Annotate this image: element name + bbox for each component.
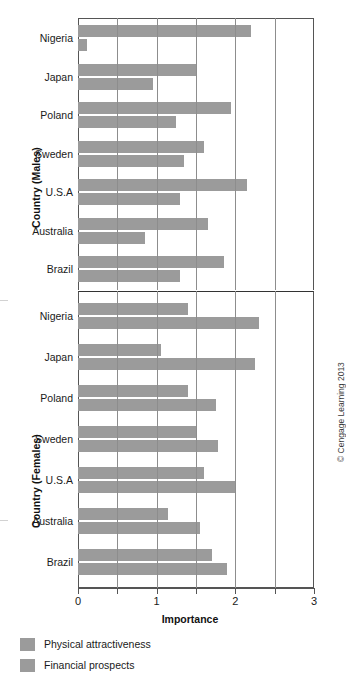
legend: Physical attractivenessFinancial prospec… <box>20 636 280 678</box>
y-tick-label: Brazil <box>0 263 73 275</box>
bar-financial-prospects <box>78 193 180 205</box>
y-tick-label: Brazil <box>0 556 73 568</box>
legend-label: Physical attractiveness <box>44 636 151 653</box>
gridline <box>117 291 118 588</box>
bar-financial-prospects <box>78 232 145 244</box>
bar-financial-prospects <box>78 399 216 411</box>
category-labels: NigeriaJapanPolandSwedenU.S.AAustraliaBr… <box>0 0 76 686</box>
x-axis-title: Importance <box>0 613 346 625</box>
gridline <box>157 18 158 290</box>
y-axis-title-males: Country (Males) <box>30 147 42 228</box>
bar-financial-prospects <box>78 358 255 370</box>
bar-physical-attractiveness <box>78 218 208 230</box>
bar-physical-attractiveness <box>78 25 251 37</box>
bar-physical-attractiveness <box>78 102 231 114</box>
bar-financial-prospects <box>78 78 153 90</box>
bar-chart-figure: NigeriaJapanPolandSwedenU.S.AAustraliaBr… <box>0 0 346 686</box>
copyright-credit: © Cengage Learning 2013 <box>336 362 346 462</box>
panel-males <box>78 18 314 290</box>
y-tick-label: Nigeria <box>0 32 73 44</box>
bar-physical-attractiveness <box>78 256 224 268</box>
bar-financial-prospects <box>78 270 180 282</box>
bar-physical-attractiveness <box>78 549 212 561</box>
bar-financial-prospects <box>78 522 200 534</box>
bar-physical-attractiveness <box>78 508 168 520</box>
x-tick-label: 0 <box>75 595 81 607</box>
gridline <box>275 291 276 588</box>
bar-financial-prospects <box>78 155 184 167</box>
x-axis-tick <box>275 588 276 594</box>
gridline <box>235 291 236 588</box>
y-tick-label: Poland <box>0 392 73 404</box>
x-tick-label: 1 <box>154 595 160 607</box>
gridline <box>117 18 118 290</box>
bar-physical-attractiveness <box>78 426 196 438</box>
legend-swatch <box>20 638 35 651</box>
x-axis-tick <box>78 588 79 594</box>
y-tick-label: Nigeria <box>0 310 73 322</box>
gridline <box>196 18 197 290</box>
x-tick-label: 2 <box>232 595 238 607</box>
bar-physical-attractiveness <box>78 179 247 191</box>
bar-financial-prospects <box>78 317 259 329</box>
legend-item: Financial prospects <box>20 657 280 675</box>
bar-physical-attractiveness <box>78 303 188 315</box>
legend-item: Physical attractiveness <box>20 636 280 654</box>
gridline <box>275 18 276 290</box>
y-tick-label: Japan <box>0 71 73 83</box>
legend-swatch <box>20 659 35 672</box>
panel-females <box>78 291 314 588</box>
bar-physical-attractiveness <box>78 385 188 397</box>
x-axis-tick <box>196 588 197 594</box>
x-axis: 0123 <box>78 588 314 589</box>
bar-financial-prospects <box>78 563 227 575</box>
x-tick-label: 3 <box>311 595 317 607</box>
bar-physical-attractiveness <box>78 141 204 153</box>
bar-physical-attractiveness <box>78 344 161 356</box>
bar-financial-prospects <box>78 440 218 452</box>
y-tick-label: Poland <box>0 109 73 121</box>
x-axis-tick <box>314 588 315 594</box>
bar-physical-attractiveness <box>78 64 196 76</box>
x-axis-tick <box>117 588 118 594</box>
bar-financial-prospects <box>78 116 176 128</box>
y-axis-title-females: Country (Females) <box>30 434 42 528</box>
x-axis-tick <box>157 588 158 594</box>
x-axis-tick <box>235 588 236 594</box>
gridline <box>157 291 158 588</box>
gridline <box>196 291 197 588</box>
legend-label: Financial prospects <box>44 657 134 674</box>
y-tick-label: Japan <box>0 351 73 363</box>
bar-financial-prospects <box>78 39 87 51</box>
bar-physical-attractiveness <box>78 467 204 479</box>
gridline <box>235 18 236 290</box>
